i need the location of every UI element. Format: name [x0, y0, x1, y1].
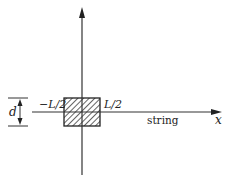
vertical-arrow-icon: [79, 7, 85, 18]
right-end-label: L/2: [103, 98, 122, 111]
x-axis-label: x: [215, 113, 222, 127]
vertical-axis: [79, 7, 85, 175]
left-end-label: −L/2: [39, 98, 66, 111]
dimension-arrow-up-icon: [18, 99, 23, 106]
diagram-figure: d −L/2 L/2 string x: [0, 0, 232, 185]
dimension-label: d: [9, 105, 17, 119]
string-label: string: [147, 114, 179, 126]
dimension-arrow-down-icon: [18, 118, 23, 125]
